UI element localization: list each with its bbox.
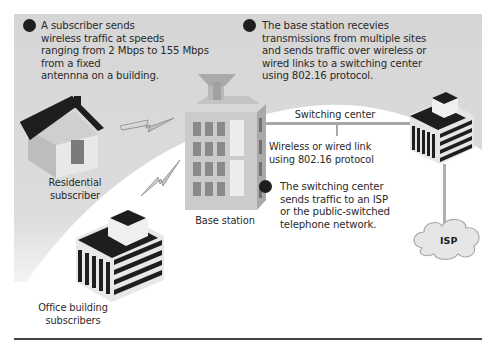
text-line: sends traffic to an ISP (280, 194, 390, 207)
link-line (266, 122, 416, 125)
callout-bullet (23, 19, 36, 32)
switching-center-label: Switching center (290, 108, 380, 121)
residential-subscriber-label: Residential subscriber (40, 176, 110, 202)
text-line: A subscriber sends (41, 20, 209, 33)
text-line: Wireless or wired link (269, 140, 399, 153)
text-line: antennna on a building. (41, 70, 209, 83)
office-subscribers-label: Office building subscribers (28, 301, 118, 327)
text-line: wired links to a switching center (262, 58, 426, 71)
text-line: or the public-switched (280, 206, 390, 219)
base-station-label: Base station (180, 214, 270, 227)
text-line: The switching center (280, 181, 390, 194)
bottom-rule (14, 338, 482, 340)
isp-line (443, 164, 446, 224)
text-line: transmissions from multiple sites (262, 33, 426, 46)
callout-1-text: A subscriber sends wireless traffic at s… (41, 20, 209, 83)
text-line: using 802.16 protocol. (262, 70, 426, 83)
diagram-canvas: A subscriber sends wireless traffic at s… (0, 0, 496, 345)
text-line: subscribers (28, 314, 118, 327)
text-line: Office building (28, 301, 118, 314)
text-line: telephone network. (280, 219, 390, 232)
link-tick (336, 124, 338, 136)
text-line: wireless traffic at speeds (41, 33, 209, 46)
link-label: Wireless or wired link using 802.16 prot… (265, 140, 399, 166)
callout-bullet (243, 19, 256, 32)
text-line: Residential (40, 176, 110, 189)
text-line: subscriber (40, 189, 110, 202)
callout-3-text: The switching center sends traffic to an… (280, 181, 390, 231)
text-line: using 802.16 protocol (269, 153, 399, 166)
isp-label: ISP (440, 235, 457, 246)
text-line: The base station recevies (262, 20, 426, 33)
text-line: ranging from 2 Mbps to 155 Mbps (41, 45, 209, 58)
callout-bullet (259, 180, 272, 193)
text-line: from a fixed (41, 58, 209, 71)
text-line: and sends traffic over wireless or (262, 45, 426, 58)
callout-2-text: The base station recevies transmissions … (262, 20, 426, 83)
